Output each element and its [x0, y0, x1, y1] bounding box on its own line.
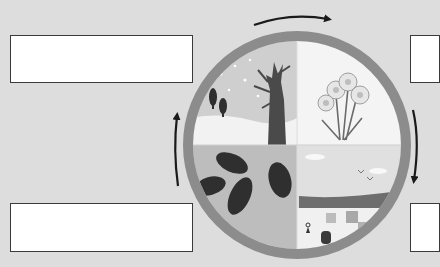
label-text-bottom-left — [11, 204, 192, 212]
label-text-top-left — [11, 36, 192, 44]
right-arrow-icon — [413, 110, 417, 180]
label-box-top-right[interactable] — [410, 35, 440, 83]
label-text-top-right — [411, 36, 439, 44]
label-text-bottom-right — [411, 204, 439, 212]
left-arrow-icon — [175, 116, 178, 186]
top-arrow-icon — [254, 17, 328, 25]
label-box-bottom-right[interactable] — [410, 203, 440, 252]
label-box-top-left[interactable] — [10, 35, 193, 83]
label-box-bottom-left[interactable] — [10, 203, 193, 252]
